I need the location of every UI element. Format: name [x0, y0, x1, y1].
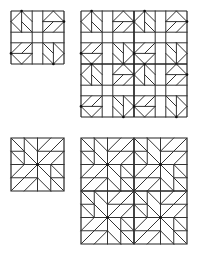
block-b-single-panel	[11, 138, 64, 191]
quilt-diagram	[0, 0, 197, 257]
block-a-tiled-panel	[80, 10, 189, 119]
block-b-tiled-panel	[81, 138, 187, 244]
block-a-single-panel	[10, 10, 66, 66]
